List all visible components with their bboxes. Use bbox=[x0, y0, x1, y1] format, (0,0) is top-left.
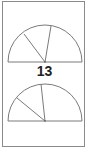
top-semicircle bbox=[8, 25, 82, 63]
bottom-center-point bbox=[44, 120, 46, 122]
top-arc bbox=[8, 25, 82, 62]
figure-number-label: 13 bbox=[0, 63, 89, 79]
bottom-radius-left bbox=[17, 98, 45, 121]
bottom-radius-right bbox=[41, 84, 45, 121]
top-radius-right bbox=[45, 26, 51, 62]
bottom-semicircle bbox=[8, 84, 82, 122]
bottom-arc bbox=[8, 84, 82, 121]
top-radius-left bbox=[24, 34, 45, 62]
